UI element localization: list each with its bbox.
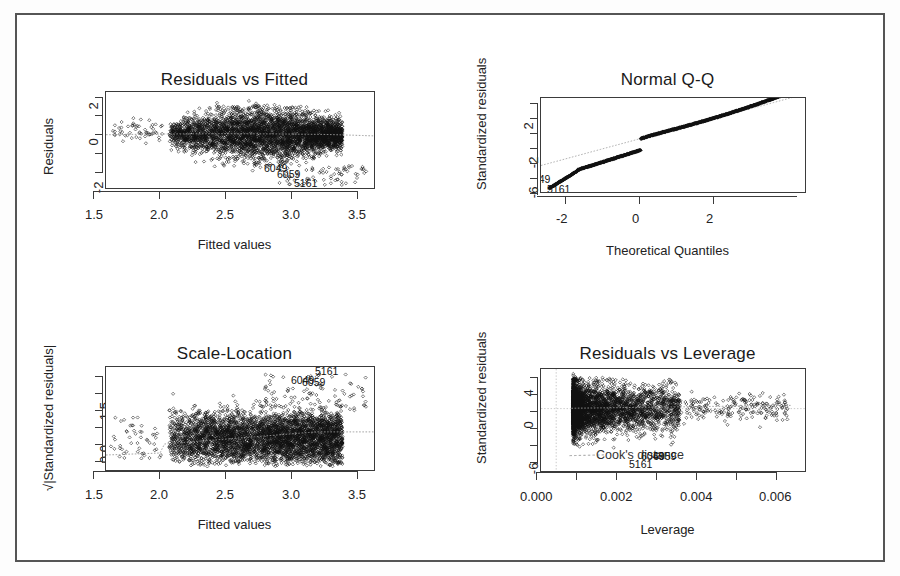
ytick-mark: [95, 97, 102, 98]
ytick-mark: [530, 462, 537, 463]
point-label: 6059: [302, 376, 325, 388]
xtick-mark: [776, 473, 777, 480]
ytick-mark: [95, 444, 102, 445]
xtick-mark: [616, 473, 617, 480]
figure-canvas: Residuals vs Fitted Residuals Fitted val…: [0, 0, 900, 576]
xtick-label: 0.006: [759, 489, 792, 504]
xtick-mark: [357, 192, 358, 199]
y-axis-line: [537, 377, 538, 464]
xtick-mark: [225, 472, 226, 479]
xtick-label: 3.5: [348, 207, 366, 222]
xtick-mark: [357, 472, 358, 479]
scatter-svg-normal-qq: [541, 98, 806, 193]
point-label: 5161: [629, 458, 652, 470]
axis-label-y-scale-location: √|Standardized residuals|: [41, 345, 56, 491]
xtick-label: 0.002: [600, 489, 633, 504]
axis-label-x-residuals-vs-leverage: Leverage: [452, 522, 883, 537]
panel-title-residuals-vs-fitted: Residuals vs Fitted: [17, 70, 452, 90]
axis-label-x-normal-qq: Theoretical Quantiles: [452, 243, 883, 258]
xtick-mark: [696, 473, 697, 480]
xtick-mark: [536, 473, 537, 480]
xtick-mark: [159, 472, 160, 479]
ytick-mark: [530, 445, 537, 446]
ytick-mark: [95, 134, 102, 135]
x-axis-line: [537, 196, 797, 197]
panel-normal-qq: Normal Q-Q Standardized residuals Theore…: [452, 15, 883, 289]
axis-label-y-residuals-vs-leverage: Standardized residuals: [474, 332, 489, 464]
xtick-label: 2.5: [216, 487, 234, 502]
panel-title-scale-location: Scale-Location: [17, 344, 452, 364]
xtick-label: 0: [632, 211, 639, 226]
axis-label-x-residuals-vs-fitted: Fitted values: [17, 237, 452, 252]
plot-area-residuals-vs-leverage: Cook's distance 6049 6059 5161: [540, 368, 806, 472]
ytick-mark: [530, 193, 537, 194]
ytick-mark: [95, 393, 102, 394]
point-label: 6059: [653, 450, 676, 462]
ytick-mark: [530, 163, 537, 164]
xtick-label: 0.000: [520, 489, 553, 504]
axis-label-y-normal-qq: Standardized residuals: [474, 58, 489, 190]
point-label: 5161: [294, 177, 317, 189]
panel-scale-location: Scale-Location √|Standardized residuals|…: [17, 289, 452, 563]
x-axis-line: [93, 191, 358, 192]
y-axis-line: [102, 376, 103, 463]
figure-outer-border: Residuals vs Fitted Residuals Fitted val…: [15, 13, 885, 562]
ytick-mark: [95, 115, 102, 116]
ytick-mark: [530, 178, 537, 179]
xtick-label: 3.0: [282, 207, 300, 222]
panel-residuals-vs-fitted: Residuals vs Fitted Residuals Fitted val…: [17, 15, 452, 289]
ytick-mark: [530, 394, 537, 395]
xtick-mark: [225, 192, 226, 199]
point-label: 5161: [547, 183, 570, 193]
ytick-mark: [95, 410, 102, 411]
ytick-mark: [95, 461, 102, 462]
x-axis-line: [93, 471, 358, 472]
ytick-label: 2: [86, 102, 101, 109]
y-axis-line: [102, 97, 103, 173]
xtick-label: 3.5: [348, 487, 366, 502]
xtick-label: 2.0: [150, 207, 168, 222]
ytick-mark: [95, 427, 102, 428]
ytick-mark: [95, 172, 102, 173]
ytick-label: 0: [86, 138, 101, 145]
plot-area-normal-qq: 6049 5161: [540, 97, 806, 193]
xtick-mark: [576, 473, 577, 480]
panel-residuals-vs-leverage: Residuals vs Leverage Standardized resid…: [452, 289, 883, 563]
ytick-mark: [530, 103, 537, 104]
xtick-mark: [159, 192, 160, 199]
xtick-mark: [93, 192, 94, 199]
scatter-svg-scale-location: [106, 367, 375, 471]
ytick-label: 2: [521, 122, 536, 129]
plot-area-scale-location: 5161 6049 6059: [105, 366, 375, 471]
xtick-label: 1.5: [85, 207, 103, 222]
y-axis-line: [537, 103, 538, 195]
xtick-mark: [656, 473, 657, 480]
ytick-mark: [530, 118, 537, 119]
ytick-mark: [530, 148, 537, 149]
xtick-mark: [565, 197, 566, 204]
scatter-svg-residuals-vs-fitted: [106, 92, 375, 189]
ytick-mark: [530, 377, 537, 378]
xtick-label: 1.5: [85, 487, 103, 502]
plot-area-residuals-vs-fitted: 6049 6059 5161: [105, 91, 375, 189]
panel-title-residuals-vs-leverage: Residuals vs Leverage: [452, 344, 883, 364]
ytick-mark: [530, 133, 537, 134]
x-axis-line: [536, 472, 777, 473]
axis-label-y-residuals-vs-fitted: Residuals: [41, 118, 56, 175]
xtick-label: -2: [556, 211, 568, 226]
ytick-mark: [95, 153, 102, 154]
xtick-mark: [736, 473, 737, 480]
xtick-label: 2.5: [216, 207, 234, 222]
axis-label-x-scale-location: Fitted values: [17, 517, 452, 532]
ytick-mark: [530, 428, 537, 429]
xtick-mark: [93, 472, 94, 479]
xtick-label: 2: [706, 211, 713, 226]
xtick-mark: [713, 197, 714, 204]
xtick-label: 3.0: [282, 487, 300, 502]
xtick-mark: [291, 192, 292, 199]
xtick-mark: [291, 472, 292, 479]
xtick-label: 0.004: [680, 489, 713, 504]
ytick-mark: [95, 376, 102, 377]
ytick-mark: [530, 411, 537, 412]
panel-title-normal-qq: Normal Q-Q: [452, 70, 883, 90]
